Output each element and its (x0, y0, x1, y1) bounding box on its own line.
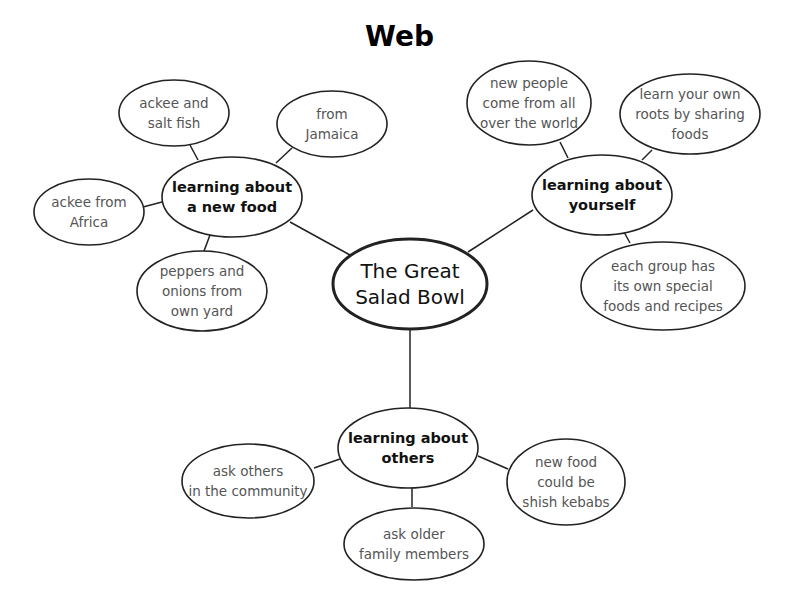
leaf-node-each-group: each group has its own special foods and… (581, 242, 745, 330)
leaf-node-shish-kebabs: new food could be shish kebabs (507, 439, 625, 525)
hub-node-others: learning about others (338, 408, 478, 488)
leaf-node-ackee-africa: ackee from Africa (34, 179, 144, 245)
hub-node-yourself: learning about yourself (532, 155, 672, 235)
leaf-node-ask-family: ask older family members (344, 508, 484, 580)
center-node: The Great Salad Bowl (333, 240, 487, 328)
leaf-node-ask-community: ask others in the community (182, 444, 314, 518)
leaf-node-from-jamaica: from Jamaica (277, 91, 387, 157)
leaf-node-ackee-salt-fish: ackee and salt fish (119, 80, 229, 146)
hub-node-new-food: learning about a new food (162, 157, 302, 237)
leaf-node-new-people: new people come from all over the world (467, 61, 591, 145)
leaf-node-peppers-onions: peppers and onions from own yard (137, 251, 267, 331)
leaf-node-learn-roots: learn your own roots by sharing foods (620, 74, 760, 154)
